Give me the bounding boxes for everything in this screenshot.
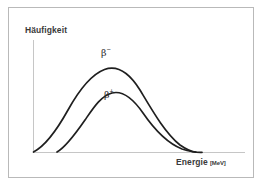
beta-plus-charge: +: [110, 88, 114, 95]
curve-beta-plus: [57, 92, 202, 152]
curve-label-beta-minus: β−: [101, 46, 111, 58]
x-axis-label: Energie[MeV]: [176, 157, 226, 167]
x-axis-unit: [MeV]: [210, 160, 226, 166]
beta-minus-charge: −: [107, 46, 111, 53]
y-axis-label: Häufigkeit: [25, 25, 67, 35]
curve-beta-minus: [34, 68, 197, 152]
x-axis-label-text: Energie: [176, 157, 208, 167]
figure-container: Häufigkeit Energie[MeV] β− β+: [0, 0, 263, 186]
curve-label-beta-plus: β+: [104, 88, 114, 100]
